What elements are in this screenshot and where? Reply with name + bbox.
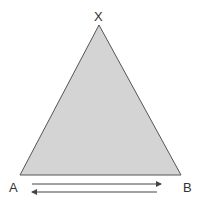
label-a: A bbox=[9, 181, 18, 194]
label-x: X bbox=[94, 10, 103, 23]
label-b: B bbox=[183, 181, 192, 194]
triangle bbox=[20, 25, 181, 175]
triangle-diagram bbox=[0, 0, 200, 206]
